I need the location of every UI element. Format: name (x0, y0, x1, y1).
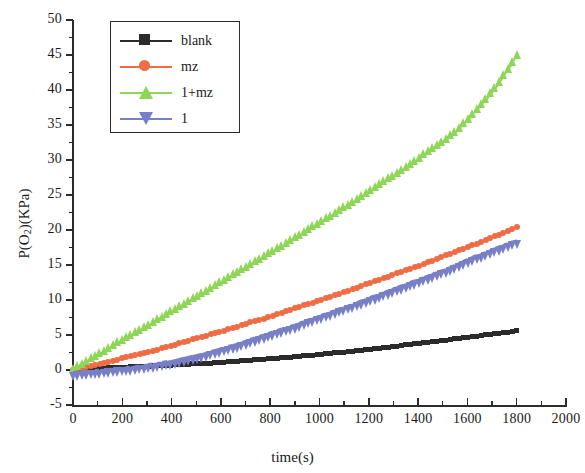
x-axis-line (73, 405, 567, 407)
y-tick (66, 54, 73, 56)
y-axis-title-base: P(O (16, 234, 32, 258)
chart-figure: 0200400600800100012001400160018002000-50… (0, 0, 585, 473)
legend-item-1-plus-mz[interactable]: 1+mz (111, 80, 239, 106)
y-tick (66, 159, 73, 161)
circle-icon (139, 60, 150, 71)
legend-label-mz: mz (181, 60, 198, 74)
legend-marker-blank (120, 33, 172, 49)
x-axis-title: time(s) (0, 449, 585, 466)
y-tick-label: 10 (26, 291, 62, 307)
y-axis-title-tail: )(KPa) (16, 189, 32, 230)
legend-marker-1 (120, 111, 172, 127)
y-tick-label: 40 (26, 81, 62, 97)
y-tick (66, 299, 73, 301)
y-axis-title-subscript: 2 (22, 229, 33, 234)
triangle-down-icon (139, 112, 153, 125)
y-tick (66, 229, 73, 231)
legend-item-1[interactable]: 1 (111, 106, 239, 132)
triangle-up-icon (139, 86, 153, 99)
y-tick (66, 124, 73, 126)
y-tick-label: 0 (26, 361, 62, 377)
y-tick-label: 5 (26, 326, 62, 342)
data-point (513, 240, 521, 249)
y-tick (66, 194, 73, 196)
y-tick-label: 50 (26, 11, 62, 27)
legend: blank mz 1+mz 1 (110, 21, 240, 133)
legend-marker-mz (120, 59, 172, 75)
y-tick (66, 19, 73, 21)
legend-label-1: 1 (181, 112, 188, 126)
legend-marker-1-plus-mz (120, 85, 172, 101)
legend-item-mz[interactable]: mz (111, 54, 239, 80)
y-axis-title: P(O2)(KPa) (16, 164, 33, 284)
y-tick (66, 264, 73, 266)
y-tick (66, 89, 73, 91)
y-tick (66, 334, 73, 336)
y-tick (66, 404, 73, 406)
legend-item-blank[interactable]: blank (111, 28, 239, 54)
y-tick-label: -5 (26, 396, 62, 412)
square-icon (139, 34, 150, 45)
y-tick-label: 35 (26, 116, 62, 132)
x-tick-label: 2000 (536, 411, 585, 427)
legend-label-blank: blank (181, 34, 212, 48)
legend-label-1-plus-mz: 1+mz (181, 86, 213, 100)
y-tick-label: 45 (26, 46, 62, 62)
